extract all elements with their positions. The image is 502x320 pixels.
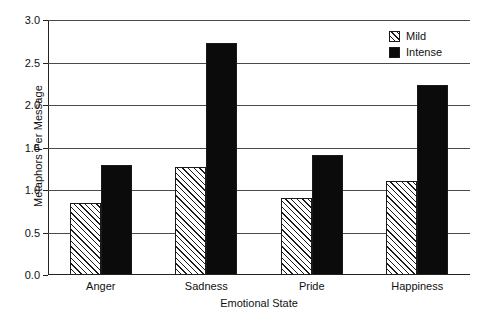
x-axis-tick-label-anger: Anger (86, 280, 115, 292)
gridline (48, 148, 470, 149)
y-axis-tick-label: 2.0 (25, 99, 40, 111)
y-axis-tick-label: 0.0 (25, 269, 40, 281)
legend-item-mild: Mild (389, 28, 442, 44)
y-axis-tick-mark (43, 105, 48, 106)
y-axis-tick-mark (43, 275, 48, 276)
y-axis-tick-mark (43, 190, 48, 191)
y-axis-tick-label: 1.0 (25, 184, 40, 196)
legend-label-mild: Mild (406, 30, 426, 42)
y-axis-tick-mark (43, 148, 48, 149)
gridline (48, 105, 470, 106)
bar-pride-mild (281, 198, 312, 275)
bar-chart-figure: Metaphors Per Message Emotional State 0.… (0, 0, 502, 320)
bar-sadness-intense (206, 43, 237, 275)
x-axis-tick-label-happiness: Happiness (391, 280, 443, 292)
bar-anger-mild (70, 203, 101, 275)
x-axis-title: Emotional State (48, 297, 470, 309)
x-axis-tick-label-pride: Pride (299, 280, 325, 292)
bar-happiness-mild (386, 181, 417, 275)
chart-legend: Mild Intense (385, 26, 446, 62)
x-axis-tick-label-sadness: Sadness (185, 280, 228, 292)
bar-happiness-intense (417, 85, 448, 275)
legend-label-intense: Intense (406, 46, 442, 58)
y-axis-tick-label: 1.5 (25, 142, 40, 154)
bar-anger-intense (101, 165, 132, 276)
y-axis-tick-label: 3.0 (25, 14, 40, 26)
bar-sadness-mild (175, 167, 206, 275)
gridline (48, 63, 470, 64)
y-axis-tick-mark (43, 233, 48, 234)
y-axis-tick-label: 2.5 (25, 57, 40, 69)
gridline (48, 20, 470, 21)
filled-square-icon (389, 47, 400, 58)
hatched-square-icon (389, 31, 400, 42)
y-axis-tick-mark (43, 63, 48, 64)
y-axis-tick-label: 0.5 (25, 227, 40, 239)
legend-item-intense: Intense (389, 44, 442, 60)
bar-pride-intense (312, 155, 343, 275)
y-axis-tick-mark (43, 20, 48, 21)
